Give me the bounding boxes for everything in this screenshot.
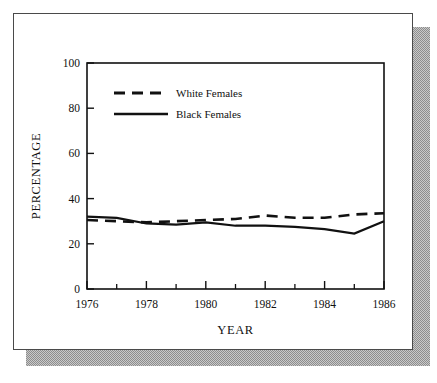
y-tick-label: 100 bbox=[63, 57, 81, 69]
data-series-layer bbox=[87, 213, 384, 233]
y-tick-label: 40 bbox=[69, 193, 81, 205]
legend-label-1: White Females bbox=[176, 87, 242, 99]
y-axis-ticks bbox=[87, 63, 94, 289]
y-tick-label: 0 bbox=[74, 283, 80, 295]
x-tick-label: 1984 bbox=[313, 298, 336, 310]
x-tick-label: 1982 bbox=[254, 298, 277, 310]
legend-label-2: Black Females bbox=[176, 108, 241, 120]
y-axis-title: PERCENTAGE bbox=[29, 133, 43, 219]
x-tick-label: 1980 bbox=[194, 298, 217, 310]
y-axis-tick-labels: 020406080100 bbox=[63, 57, 81, 295]
chart-legend: White FemalesBlack Females bbox=[114, 87, 242, 120]
x-axis-title: YEAR bbox=[217, 323, 253, 337]
y-tick-label: 80 bbox=[69, 102, 81, 114]
line-chart: 020406080100 197619781980198219841986 Wh… bbox=[14, 14, 412, 349]
x-tick-label: 1976 bbox=[76, 298, 99, 310]
x-tick-label: 1986 bbox=[373, 298, 396, 310]
figure-frame: 020406080100 197619781980198219841986 Wh… bbox=[13, 13, 413, 350]
y-tick-label: 60 bbox=[69, 147, 81, 159]
chart-svg: 020406080100 197619781980198219841986 Wh… bbox=[14, 14, 414, 351]
x-axis-tick-labels: 197619781980198219841986 bbox=[76, 298, 396, 310]
y-tick-label: 20 bbox=[69, 238, 81, 250]
x-tick-label: 1978 bbox=[135, 298, 158, 310]
